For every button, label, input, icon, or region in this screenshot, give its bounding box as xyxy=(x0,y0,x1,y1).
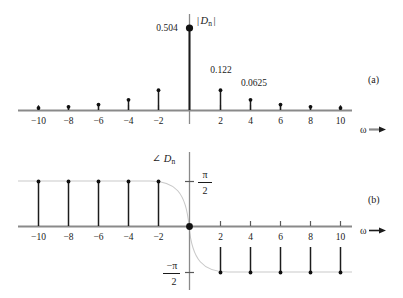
panel-b-phase: −10 −8 −6 −4 −2 2 4 6 8 10 ∠Dn π 2 −π xyxy=(18,152,386,290)
panel-b-tick-label-p6: 6 xyxy=(278,232,283,242)
panel-a-tick-label-p2: 2 xyxy=(218,116,223,126)
panel-a-value-label-00625: 0.0625 xyxy=(241,78,267,88)
panel-b-tick-label-p8: 8 xyxy=(308,232,313,242)
panel-b-tick-label-n8: −8 xyxy=(63,232,73,242)
panel-b-tick-label-n6: −6 xyxy=(93,232,103,242)
panel-a-tick-label-p10: 10 xyxy=(336,116,346,126)
panel-b-tick-label-p4: 4 xyxy=(248,232,253,242)
panel-a-x-axis-title: ω xyxy=(360,124,386,135)
panel-b-y-axis-title: ∠Dn xyxy=(152,153,175,166)
panel-b-tick-label-n4: −4 xyxy=(123,232,133,242)
svg-text:ω: ω xyxy=(360,124,367,135)
panel-a-value-label-0504: 0.504 xyxy=(156,23,178,33)
pi-over-2-numerator: π xyxy=(202,169,207,180)
panel-b-label: (b) xyxy=(368,194,380,206)
panel-a-tick-label-n2: −2 xyxy=(153,116,163,126)
neg-pi-over-2-denominator: 2 xyxy=(172,276,177,287)
panel-b-tick-label-n10: −10 xyxy=(31,232,46,242)
svg-text:ω: ω xyxy=(360,225,367,236)
neg-pi-over-2-numerator: −π xyxy=(167,260,178,271)
panel-b-ticks xyxy=(221,221,341,226)
panel-a-label: (a) xyxy=(368,74,379,86)
panel-b-x-axis-title: ω xyxy=(360,225,386,236)
panel-a-tick-label-p8: 8 xyxy=(308,116,313,126)
pi-over-2-denominator: 2 xyxy=(203,185,208,196)
panel-b-ytick-label-pos-pi-over-2: π 2 xyxy=(198,169,212,196)
panel-a-value-label-0122: 0.122 xyxy=(210,65,232,75)
spectrum-figure: −10 −8 −6 −4 −2 2 4 6 8 10 0.504 0.122 0… xyxy=(0,0,403,298)
svg-text:∠Dn: ∠Dn xyxy=(152,153,175,166)
panel-a-tick-label-n8: −8 xyxy=(63,116,73,126)
panel-a-tick-label-n6: −6 xyxy=(93,116,103,126)
panel-a-tick-label-p6: 6 xyxy=(278,116,283,126)
panel-b-tick-label-n2: −2 xyxy=(153,232,163,242)
figure-container: −10 −8 −6 −4 −2 2 4 6 8 10 0.504 0.122 0… xyxy=(0,0,403,298)
panel-a-tick-label-n10: −10 xyxy=(31,116,46,126)
panel-a-stems xyxy=(39,28,341,110)
panel-a-tick-label-n4: −4 xyxy=(123,116,133,126)
panel-a-tick-label-p4: 4 xyxy=(248,116,253,126)
panel-a-magnitude: −10 −8 −6 −4 −2 2 4 6 8 10 0.504 0.122 0… xyxy=(18,14,386,135)
panel-b-ytick-label-neg-pi-over-2: −π 2 xyxy=(163,260,180,287)
panel-b-tick-label-p10: 10 xyxy=(336,232,346,242)
svg-text:|Dn|: |Dn| xyxy=(197,15,216,28)
panel-b-tick-label-p2: 2 xyxy=(218,232,223,242)
panel-a-y-axis-title: |Dn| xyxy=(197,15,216,28)
